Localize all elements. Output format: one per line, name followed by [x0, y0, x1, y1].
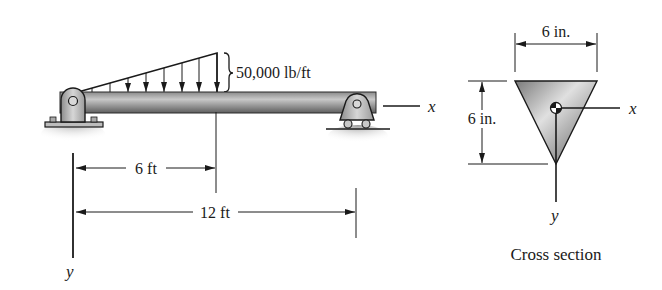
cross-section-x-label: x [628, 99, 637, 118]
dimension-6ft-label: 6 ft [135, 160, 157, 177]
brace-icon [224, 53, 233, 92]
cross-section-caption: Cross section [510, 245, 602, 264]
beam [60, 92, 376, 113]
load-arrow-icon [125, 78, 131, 92]
load-arrow-icon [161, 68, 167, 92]
dimension-12ft-label: 12 ft [200, 204, 230, 221]
centroid-icon [551, 103, 562, 114]
load-arrow-icon [143, 73, 149, 92]
load-arrow-icon [196, 58, 202, 92]
x-axis-label: x [427, 97, 436, 116]
beam-diagram: 50,000 lb/ft x y 6 ft 12 ft [0, 0, 662, 290]
load-magnitude-label: 50,000 lb/ft [236, 64, 311, 81]
load-arrow-icon [179, 63, 185, 92]
dimension-12ft: 12 ft [76, 188, 356, 238]
distributed-load [78, 53, 220, 92]
cross-section-y-label: y [549, 206, 559, 225]
cross-section: 6 in. 6 in. x y Cross section [468, 22, 637, 264]
y-axis-label: y [64, 262, 74, 281]
load-arrow-icon [214, 53, 220, 92]
cross-section-width-label: 6 in. [542, 23, 570, 40]
cross-section-height-label: 6 in. [468, 110, 496, 127]
